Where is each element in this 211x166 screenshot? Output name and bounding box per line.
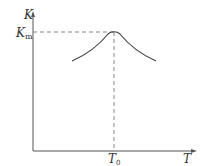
t0-label: T0: [108, 152, 120, 166]
km-label: Km: [15, 26, 33, 41]
y-axis-label: K: [23, 8, 34, 22]
k-vs-t-diagram: K Km T0 T: [0, 0, 211, 166]
x-axis-label: T: [183, 152, 192, 166]
x-axis-arrow-icon: [191, 149, 197, 153]
